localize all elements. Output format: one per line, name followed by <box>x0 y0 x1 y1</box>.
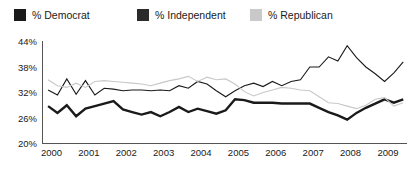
x-tick-label: 2002 <box>116 147 137 158</box>
legend-swatch-democrat <box>14 9 26 21</box>
data-series-group <box>48 46 403 120</box>
legend-label-republican: % Republican <box>268 9 333 21</box>
series-line-democrat <box>48 46 403 97</box>
x-tick-label: 2007 <box>303 147 324 158</box>
x-tick-label: 2000 <box>41 147 62 158</box>
x-tick-label: 2009 <box>377 147 398 158</box>
x-tick-label: 2001 <box>78 147 99 158</box>
x-axis-tick-labels: 2000200120022003200420052006200720082009 <box>41 147 399 158</box>
legend-label-independent: % Independent <box>155 9 226 21</box>
y-tick-label: 26% <box>18 113 38 124</box>
y-tick-label: 44% <box>18 36 38 47</box>
y-tick-label: 20% <box>18 138 38 149</box>
legend-item-independent: % Independent <box>137 8 226 21</box>
y-tick-label: 38% <box>18 62 38 73</box>
legend-item-democrat: % Democrat <box>14 8 90 21</box>
line-chart-svg: 44%38%32%26%20% 200020012002200320042005… <box>0 28 413 172</box>
chart-legend: % Democrat % Independent % Republican <box>0 0 413 28</box>
x-tick-label: 2004 <box>190 147 211 158</box>
x-tick-label: 2008 <box>340 147 361 158</box>
legend-swatch-republican <box>250 9 262 21</box>
chart-container: % Democrat % Independent % Republican 44… <box>0 0 413 172</box>
x-tick-label: 2003 <box>153 147 174 158</box>
legend-swatch-independent <box>137 9 149 21</box>
x-tick-label: 2006 <box>265 147 286 158</box>
legend-label-democrat: % Democrat <box>32 9 90 21</box>
y-axis-tick-labels: 44%38%32%26%20% <box>18 36 38 149</box>
series-line-independent <box>48 99 403 119</box>
legend-item-republican: % Republican <box>250 8 333 21</box>
plot-area: 44%38%32%26%20% 200020012002200320042005… <box>0 28 413 172</box>
x-tick-label: 2005 <box>228 147 249 158</box>
y-tick-label: 32% <box>18 87 38 98</box>
